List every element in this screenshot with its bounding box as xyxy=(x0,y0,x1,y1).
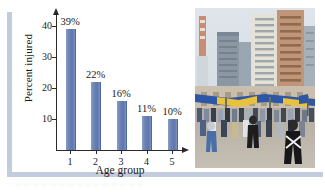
y-axis-tick xyxy=(52,119,57,120)
figure-caption-blurred: · · — — — — — — — — — — — — — — — xyxy=(6,181,176,189)
x-axis-tick xyxy=(172,150,173,154)
city-street-crowd-photo xyxy=(195,8,315,168)
x-axis-tick xyxy=(121,150,122,154)
x-axis-arrow-icon xyxy=(182,147,189,153)
bar-chart: 10203040 39%22%16%11%10% 12345 Percent i… xyxy=(12,4,187,176)
y-axis-tick xyxy=(52,88,57,89)
photo-artwork xyxy=(195,8,315,168)
bar-age-group-2[interactable] xyxy=(91,82,101,150)
x-axis-line xyxy=(56,150,184,151)
y-axis-tick xyxy=(52,57,57,58)
y-axis-label: Percent injured xyxy=(22,8,34,128)
bar-age-group-5[interactable] xyxy=(168,119,178,150)
y-axis-arrow-icon xyxy=(53,8,59,15)
bar-value-label-5: 10% xyxy=(155,106,189,117)
bar-value-label-1: 39% xyxy=(53,16,87,27)
x-axis-tick xyxy=(96,150,97,154)
x-axis-tick xyxy=(147,150,148,154)
bar-age-group-3[interactable] xyxy=(117,101,127,150)
y-axis-line xyxy=(56,14,57,150)
bar-value-label-3: 16% xyxy=(104,88,138,99)
x-axis-label: Age group xyxy=(56,164,184,176)
figure-page: 10203040 39%22%16%11%10% 12345 Percent i… xyxy=(0,0,325,192)
bar-age-group-1[interactable] xyxy=(66,29,76,150)
bar-value-label-2: 22% xyxy=(79,69,113,80)
bar-age-group-4[interactable] xyxy=(142,116,152,150)
x-axis-tick xyxy=(70,150,71,154)
